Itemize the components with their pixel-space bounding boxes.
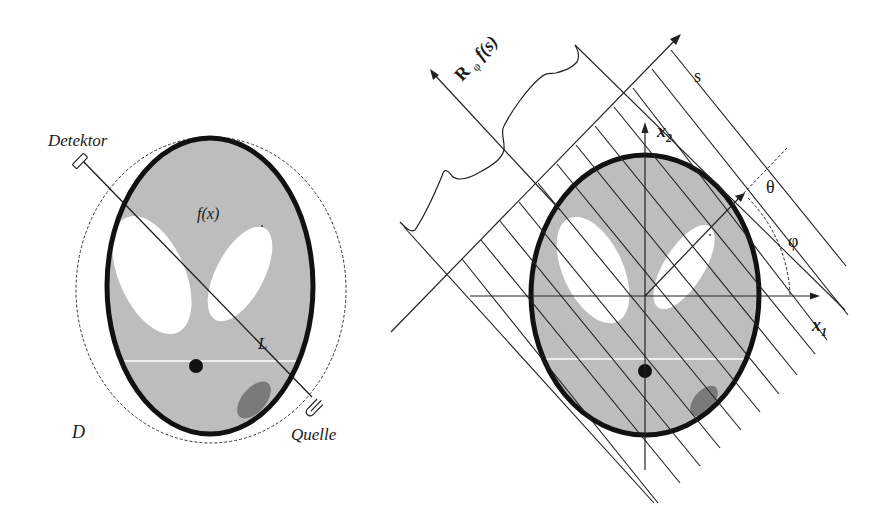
phantom-black-dot [189,359,203,373]
label-s-axis: s [694,66,701,86]
label-line: L [257,334,267,353]
label-theta: θ [766,177,775,197]
label-x2-axis: x2 [656,121,672,145]
label-domain: D [71,422,85,442]
svg-text:R φ f(s): R φ f(s) [450,32,504,88]
label-projection-fn: f(s) [470,32,502,65]
label-phi: φ [788,231,798,251]
projection-axis [432,72,560,210]
right-diagram: R φ f(s) s x2 x1 θ φ [391,32,848,503]
phantom-tiny-dot [261,225,263,227]
x1-axis-arrow-icon [810,293,820,300]
label-projection: R φ f(s) [450,32,504,88]
detector-icon [72,153,87,169]
projection-curve [400,45,578,231]
label-x1-axis: x1 [811,315,827,339]
radon-transform-figure: Detektor Quelle f(x) L D [0,0,878,523]
x2-axis-arrow-icon [642,122,649,133]
label-source: Quelle [291,425,337,444]
source-icon [305,398,325,418]
phantom-tiny-dot-right [709,234,711,236]
left-diagram: Detektor Quelle f(x) L D [47,131,346,444]
label-detector: Detektor [47,131,108,150]
theta-direction-dashed [740,147,788,197]
label-function: f(x) [197,205,219,223]
